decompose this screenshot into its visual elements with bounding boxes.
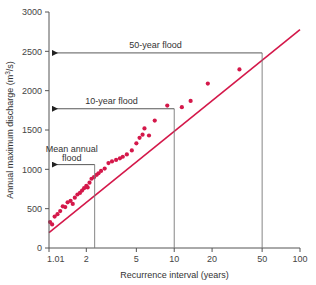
- data-point: [71, 202, 75, 206]
- data-point: [121, 155, 125, 159]
- x-tick-label: 10: [169, 254, 179, 264]
- data-point: [86, 185, 90, 189]
- y-tick-label: 1000: [22, 165, 42, 175]
- ten-year-flood-label: 10-year flood: [85, 96, 138, 106]
- data-point: [237, 67, 241, 71]
- data-point: [110, 159, 114, 163]
- x-tick-label: 1.01: [47, 254, 65, 264]
- x-axis-title: Recurrence interval (years): [120, 270, 229, 280]
- y-tick-label: 1500: [22, 125, 42, 135]
- data-point: [134, 141, 138, 145]
- data-point: [153, 118, 157, 122]
- data-point: [125, 152, 129, 156]
- data-point: [180, 105, 184, 109]
- data-point: [147, 133, 151, 137]
- x-tick-label: 2: [84, 254, 89, 264]
- x-tick-label: 20: [207, 254, 217, 264]
- data-point: [165, 104, 169, 108]
- data-point: [99, 169, 103, 173]
- x-tick-label: 50: [257, 254, 267, 264]
- y-tick-label: 2000: [22, 86, 42, 96]
- y-tick-label: 0: [37, 243, 42, 253]
- data-point: [206, 81, 210, 85]
- annotations: 50-year flood10-year floodMean annualflo…: [46, 40, 262, 248]
- chart-canvas: 0500100015002000250030001.0125102050100 …: [0, 0, 316, 285]
- y-tick-label: 3000: [22, 7, 42, 17]
- fifty-year-flood-label: 50-year flood: [129, 40, 182, 50]
- y-tick-label: 500: [27, 204, 42, 214]
- x-tick-label: 100: [292, 254, 307, 264]
- mean-annual-flood-label-line2: flood: [62, 153, 82, 163]
- y-tick-label: 2500: [22, 47, 42, 57]
- svg-text:Annual maximum discharge (m3/s: Annual maximum discharge (m3/s): [4, 61, 16, 199]
- x-tick-label: 5: [134, 254, 139, 264]
- data-point: [137, 136, 141, 140]
- data-point: [130, 148, 134, 152]
- y-axis-title: Annual maximum discharge (m3/s): [4, 61, 16, 199]
- data-point: [87, 181, 91, 185]
- data-point: [114, 158, 118, 162]
- data-point: [140, 133, 144, 137]
- flood-frequency-chart: 0500100015002000250030001.0125102050100 …: [0, 0, 316, 285]
- data-point: [103, 166, 107, 170]
- data-point: [50, 222, 54, 226]
- data-point: [58, 209, 62, 213]
- data-point: [189, 99, 193, 103]
- data-point: [142, 126, 146, 130]
- data-point: [63, 205, 67, 209]
